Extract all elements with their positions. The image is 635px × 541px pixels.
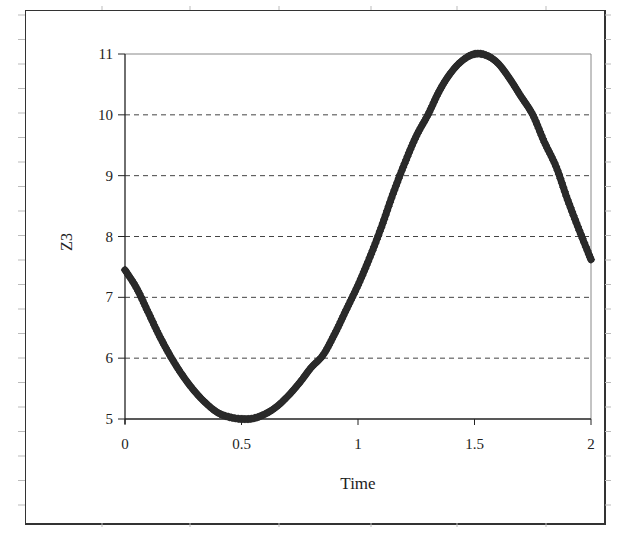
y-tick-label: 7: [106, 289, 114, 305]
x-tick-label: 1.5: [465, 436, 484, 452]
y-tick-label: 8: [106, 229, 114, 245]
y-tick-label: 5: [106, 411, 114, 427]
x-tick-label: 0.5: [232, 436, 251, 452]
y-axis-label: Z3: [58, 233, 75, 251]
x-tick-label: 2: [587, 436, 595, 452]
x-tick-label: 1: [354, 436, 362, 452]
x-tick-label: 0: [121, 436, 129, 452]
y-tick-label: 6: [106, 350, 114, 366]
x-axis-label: Time: [340, 474, 375, 493]
y-tick-label: 9: [106, 168, 114, 184]
line-chart: 56789101100.511.52TimeZ3: [0, 0, 635, 541]
y-tick-label: 10: [98, 107, 113, 123]
y-tick-label: 11: [99, 46, 113, 62]
